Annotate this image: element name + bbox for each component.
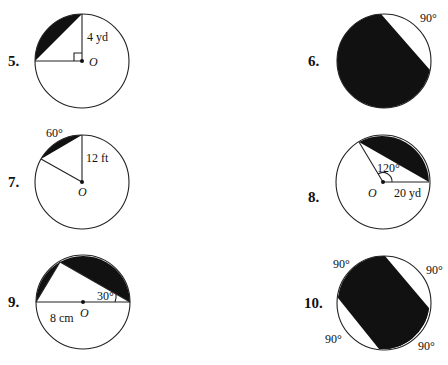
radius-label: 12 ft [86, 151, 109, 165]
arc-label-top-right: 90° [426, 263, 443, 277]
problem-number: 10. [304, 295, 323, 311]
center-label: O [368, 186, 377, 200]
problem-number: 6. [308, 53, 320, 69]
shaded-segment [60, 256, 130, 302]
shaded-segment [35, 14, 82, 61]
radius-label: 4 yd [87, 30, 108, 44]
center-label: O [89, 55, 98, 69]
problem-number: 9. [8, 294, 20, 310]
figure-8: 8. 120° 20 yd O [308, 135, 430, 229]
problem-number: 7. [8, 174, 20, 190]
arc-label: 60° [46, 126, 63, 140]
center-point [81, 300, 85, 304]
center-point [80, 59, 84, 63]
figure-5: 5. 4 yd O [8, 14, 129, 108]
chord-line [36, 262, 60, 302]
problem-number: 5. [8, 53, 20, 69]
center-point [381, 180, 385, 184]
center-point [80, 180, 84, 184]
problem-number: 8. [308, 189, 320, 205]
geometry-figures: 5. 4 yd O 6. 90° 7. 60° 12 ft O 8. [0, 0, 448, 365]
arc-label-bottom-left: 90° [325, 332, 342, 346]
angle-label: 120° [377, 161, 400, 175]
figure-6: 6. 90° [308, 11, 437, 108]
arc-label: 90° [420, 11, 437, 25]
arc-label-top-left: 90° [333, 257, 350, 271]
radius-line [41, 159, 82, 182]
center-label: O [78, 185, 87, 199]
figure-7: 7. 60° 12 ft O [8, 126, 129, 229]
angle-arc [115, 294, 116, 302]
figure-10: 10. 90° 90° 90° 90° [304, 256, 443, 353]
angle-label: 30° [97, 289, 114, 303]
center-label: O [80, 306, 89, 320]
radius-label: 8 cm [50, 311, 74, 325]
radius-label: 20 yd [394, 186, 421, 200]
figure-9: 9. 30° 8 cm O [8, 255, 130, 349]
arc-label-bottom-right: 90° [418, 339, 435, 353]
